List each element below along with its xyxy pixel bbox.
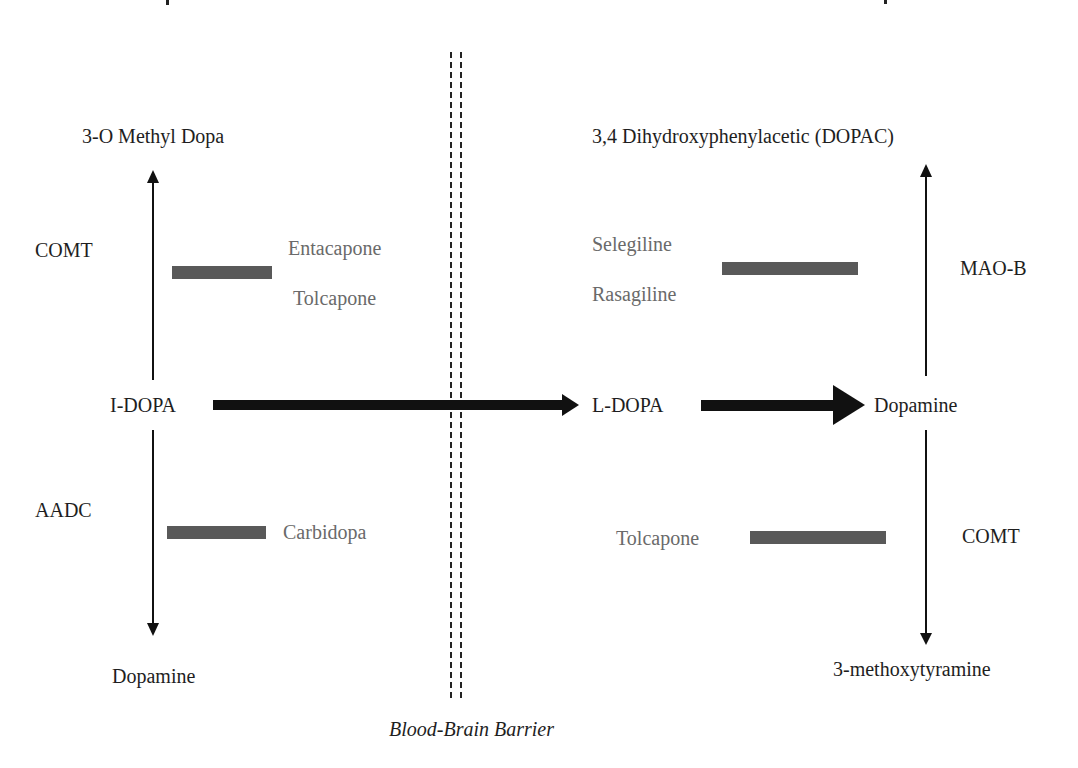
- enzyme-comt-brain: COMT: [962, 524, 1020, 548]
- arrowhead-down-icon: [147, 623, 159, 636]
- node-dopamine-periphery: Dopamine: [112, 664, 195, 688]
- node-dopac: 3,4 Dihydroxyphenylacetic (DOPAC): [592, 124, 894, 148]
- node-dopamine-brain: Dopamine: [874, 393, 957, 417]
- node-i-dopa: I-DOPA: [110, 393, 176, 417]
- inhibitor-bar-maob: [722, 262, 858, 275]
- drug-rasagiline: Rasagiline: [592, 282, 676, 306]
- drug-tolcapone-brain: Tolcapone: [616, 526, 699, 550]
- arrowhead-up-icon: [920, 164, 932, 177]
- pathway-diagram: 3-O Methyl Dopa COMT Entacapone Tolcapon…: [0, 0, 1078, 768]
- arrowhead-right-icon: [562, 394, 579, 416]
- drug-carbidopa: Carbidopa: [283, 520, 366, 544]
- inhibitor-bar-comt-brain: [750, 531, 886, 544]
- arrowhead-down-icon: [920, 633, 932, 645]
- label-blood-brain-barrier: Blood-Brain Barrier: [389, 717, 554, 741]
- enzyme-comt-periphery: COMT: [35, 238, 93, 262]
- inhibitor-bar-comt-periphery: [172, 266, 272, 279]
- arrowhead-large-right-icon: [833, 385, 865, 425]
- arrowhead-up-icon: [147, 170, 159, 183]
- cropped-title-fragment: [166, 0, 169, 5]
- cropped-title-fragment: [884, 0, 887, 4]
- inhibitor-bar-aadc: [167, 526, 266, 539]
- node-3-methoxytyramine: 3-methoxytyramine: [833, 657, 991, 681]
- arrow-ldopa-dopamine: [701, 400, 836, 411]
- node-l-dopa: L-DOPA: [592, 393, 664, 417]
- drug-entacapone: Entacapone: [288, 236, 381, 260]
- drug-tolcapone-periphery: Tolcapone: [293, 286, 376, 310]
- node-3-o-methyl-dopa: 3-O Methyl Dopa: [82, 124, 224, 148]
- enzyme-aadc: AADC: [35, 498, 92, 522]
- diagram-lines: [0, 0, 1078, 768]
- enzyme-maob: MAO-B: [960, 256, 1027, 280]
- drug-selegiline: Selegiline: [592, 232, 672, 256]
- arrow-cross-barrier: [213, 400, 563, 410]
